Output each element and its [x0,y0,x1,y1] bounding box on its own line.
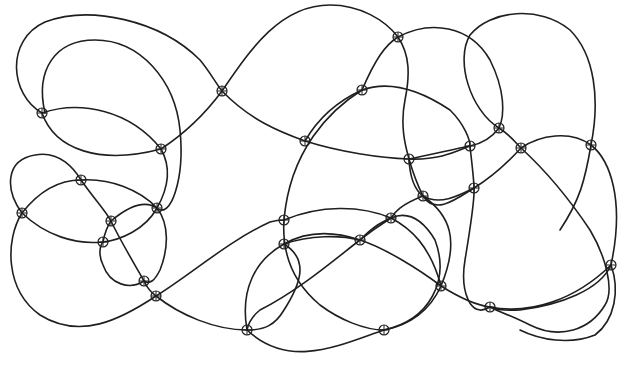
crossing-marker-layer [17,32,616,335]
crossing-marker-icon [393,32,403,42]
curve-c17 [22,213,103,243]
curve-c3 [161,5,423,196]
crossing-marker-icon [465,141,475,151]
crossing-marker-icon [37,108,47,118]
curve-c10 [464,14,595,230]
curve-c16 [22,180,166,286]
crossing-marker-icon [279,239,289,249]
crossing-marker-icon [469,183,479,193]
crossing-marker-icon [379,325,389,335]
curve-c2 [42,108,167,242]
crossing-marker-icon [98,237,108,247]
crossing-marker-icon [152,203,162,213]
curve-c5 [42,113,161,155]
crossing-marker-icon [279,215,289,225]
crossing-marker-icon [586,140,596,150]
curve-c21 [245,215,440,351]
crossing-marker-icon [606,260,616,270]
crossing-marker-icon [386,213,396,223]
curve-c8 [305,37,398,141]
crossing-marker-icon [485,302,495,312]
crossing-marker-icon [217,86,227,96]
crossing-marker-icon [418,191,428,201]
curve-diagram [0,0,633,376]
crossing-marker-icon [436,281,446,291]
curve-c4 [42,40,181,210]
curve-c23 [520,265,615,340]
curve-c11 [490,128,609,332]
crossing-marker-icon [156,144,166,154]
crossing-marker-icon [404,154,414,164]
crossing-marker-icon [300,136,310,146]
crossing-marker-icon [355,235,365,245]
curve-c19 [156,244,300,330]
crossing-marker-icon [76,175,86,185]
curve-c20 [284,237,611,309]
crossing-marker-icon [494,123,504,133]
curve-c9 [284,90,384,330]
curve-c6 [398,28,503,159]
crossing-marker-icon [17,208,27,218]
crossing-marker-icon [242,325,252,335]
crossing-marker-icon [151,291,161,301]
curve-c22 [423,188,474,205]
crossing-marker-icon [139,276,149,286]
crossing-marker-icon [357,85,367,95]
curve-layer [11,5,617,352]
crossing-marker-icon [106,216,116,226]
crossing-marker-icon [516,143,526,153]
